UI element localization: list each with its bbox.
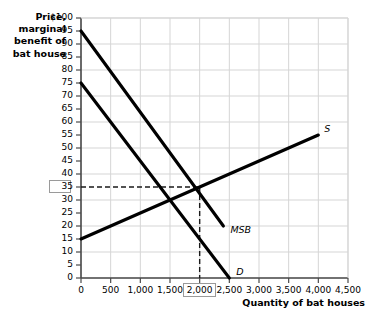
y-tick-label: 60 — [43, 116, 73, 126]
y-tick-label: 10 — [43, 246, 73, 256]
y-tick-label: 40 — [43, 168, 73, 178]
y-tick-label: 45 — [43, 155, 73, 165]
y-tick-label: 35 — [43, 181, 73, 191]
y-tick-label: 75 — [43, 77, 73, 87]
y-tick-label: 70 — [43, 90, 73, 100]
y-tick-label: 95 — [43, 25, 73, 35]
series-line-MSB — [81, 31, 223, 226]
y-tick-label: 65 — [43, 103, 73, 113]
y-tick-label: 55 — [43, 129, 73, 139]
y-tick-label: 0 — [43, 272, 73, 282]
y-tick-label: 5 — [43, 259, 73, 269]
y-tick-label: $100 — [43, 12, 73, 22]
curve-label-MSB: MSB — [230, 224, 251, 235]
y-tick-label: 90 — [43, 38, 73, 48]
y-tick-label: 80 — [43, 64, 73, 74]
grid-lines — [81, 18, 348, 278]
curve-label-D: D — [236, 266, 243, 277]
y-tick-label: 20 — [43, 220, 73, 230]
y-tick-label: 30 — [43, 194, 73, 204]
curve-label-S: S — [324, 123, 330, 134]
x-axis-title: Quantity of bat houses — [180, 297, 365, 309]
y-tick-label: 25 — [43, 207, 73, 217]
x-tick-label: 4,500 — [330, 285, 366, 295]
y-tick-label: 50 — [43, 142, 73, 152]
axis-ticks — [76, 18, 348, 283]
y-tick-label: 85 — [43, 51, 73, 61]
chart-figure: Price, marginal benefit of bat house Qua… — [0, 0, 373, 320]
series-line-D — [81, 83, 229, 278]
y-tick-label: 15 — [43, 233, 73, 243]
